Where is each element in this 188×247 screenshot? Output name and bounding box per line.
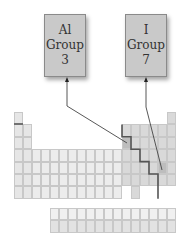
arrow-to-i (144, 77, 162, 170)
staircase-line (122, 124, 158, 198)
overlay-lines (0, 0, 188, 247)
arrow-to-al (65, 77, 127, 143)
